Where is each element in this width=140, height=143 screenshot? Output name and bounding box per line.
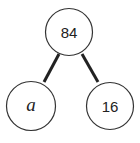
left-value: a bbox=[26, 94, 36, 115]
left-node: a bbox=[7, 82, 56, 131]
right-value: 16 bbox=[102, 98, 119, 115]
right-node: 16 bbox=[87, 83, 134, 130]
number-bond-diagram: 84 a 16 bbox=[0, 0, 140, 143]
connector-right bbox=[82, 54, 98, 82]
root-value: 84 bbox=[61, 24, 78, 41]
root-node: 84 bbox=[46, 9, 93, 56]
connector-left bbox=[44, 54, 59, 82]
